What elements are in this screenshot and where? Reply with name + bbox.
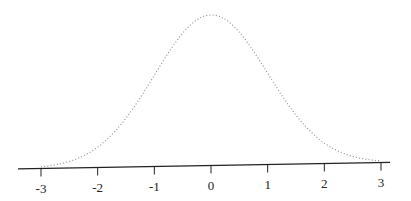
x-tick-label: 3: [378, 175, 385, 190]
x-axis-line: [18, 162, 390, 169]
x-tick-label: 2: [321, 176, 328, 191]
normal-distribution-chart: -3-2-10123: [0, 0, 411, 201]
x-tick-label: -3: [36, 181, 47, 196]
x-axis: -3-2-10123: [18, 162, 390, 195]
x-tick-label: -2: [92, 180, 103, 195]
x-tick-label: 0: [208, 178, 215, 193]
density-curve: [41, 15, 381, 167]
x-tick-label: 1: [264, 177, 271, 192]
x-tick-label: -1: [149, 179, 160, 194]
